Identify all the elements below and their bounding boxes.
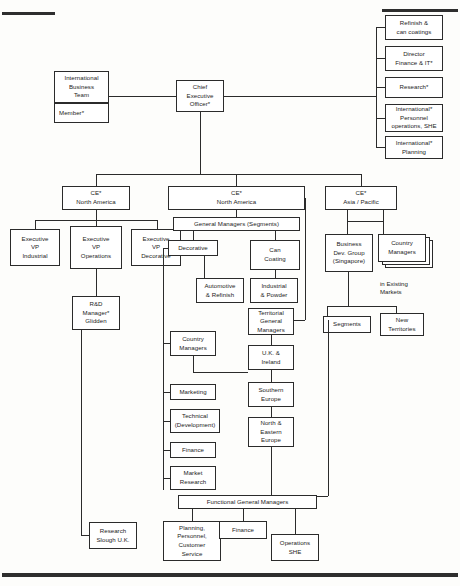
- node-label: Operations SHE: [280, 539, 310, 556]
- connector-uk-to-southern: [271, 370, 272, 382]
- node-decorative[interactable]: Decorative: [168, 240, 218, 256]
- node-label: Territorial General Managers: [257, 309, 285, 335]
- connector-rd-to-slough: [81, 535, 89, 536]
- node-segments[interactable]: Segments: [323, 316, 371, 333]
- node-ce-north-america-center[interactable]: CE* North America: [168, 186, 305, 210]
- node-technical-development[interactable]: Technical (Development): [170, 409, 220, 433]
- connector-fgm-to-planning: [192, 509, 193, 521]
- node-new-territories[interactable]: New Territories: [380, 313, 424, 336]
- node-label: R&D Manager* Glidden: [83, 300, 110, 326]
- connector-cm-elbow-h: [193, 372, 248, 373]
- node-ce-north-america-left[interactable]: CE* North America: [62, 186, 130, 210]
- connector-spine-finance: [163, 450, 170, 451]
- node-label: International* Personnel operations, SHE: [391, 105, 436, 131]
- node-can-coating[interactable]: Can Coating: [250, 240, 300, 270]
- connector-spine-technical: [163, 421, 170, 422]
- node-label: Research*: [400, 83, 429, 92]
- node-label: Southern Europe: [258, 386, 283, 403]
- node-industrial-powder[interactable]: Industrial & Powder: [250, 278, 298, 303]
- connector-bdg-down: [348, 272, 349, 306]
- connector-ibt-ceo: [109, 96, 176, 97]
- node-label: Industrial & Powder: [261, 282, 288, 299]
- connector-fgm-to-operations: [295, 509, 296, 534]
- node-operations-she[interactable]: Operations SHE: [271, 534, 319, 561]
- connector-rd-long-drop: [81, 330, 82, 535]
- node-marketing[interactable]: Marketing: [170, 384, 216, 400]
- top-right-rule: [382, 9, 458, 12]
- node-country-managers-europe[interactable]: Country Managers: [170, 331, 216, 356]
- node-international-planning[interactable]: International* Planning: [385, 136, 443, 159]
- connector-gm-to-decorative: [193, 231, 194, 240]
- connector-ceo-staff-spine: [224, 96, 376, 97]
- node-international-business-team[interactable]: International Business Team: [54, 71, 109, 103]
- node-label: U.K. & Ireland: [262, 349, 281, 366]
- node-international-personnel-operations-she[interactable]: International* Personnel operations, SHE: [385, 104, 443, 132]
- node-chief-executive-officer[interactable]: Chief Executive Officer*: [176, 80, 224, 112]
- node-international-business-team-member[interactable]: Member*: [54, 103, 109, 123]
- node-general-managers-segments[interactable]: General Managers (Segments): [173, 217, 300, 231]
- node-label: Director Finance & IT*: [395, 50, 433, 67]
- connector-na-left-to-industrial: [35, 220, 36, 229]
- node-label: Functional General Managers: [207, 498, 289, 507]
- node-label: Executive VP Industrial: [22, 235, 49, 261]
- node-research-slough-uk[interactable]: Research Slough U.K.: [89, 522, 137, 549]
- connector-asia-to-bdg: [347, 221, 348, 234]
- connector-ce-center-right-drop: [305, 198, 306, 320]
- node-finance-segment[interactable]: Finance: [170, 442, 216, 458]
- node-label: International* Planning: [396, 139, 433, 156]
- node-rd-manager-glidden[interactable]: R&D Manager* Glidden: [72, 296, 120, 330]
- connector-gm-to-can-coating: [275, 231, 276, 240]
- node-finance-functional[interactable]: Finance: [219, 521, 267, 539]
- node-label: CE* North America: [217, 189, 256, 206]
- node-business-dev-group-singapore[interactable]: Business Dev. Group (Singapore): [325, 234, 373, 272]
- node-territorial-general-managers[interactable]: Territorial General Managers: [248, 308, 294, 335]
- node-label: Can Coating: [264, 246, 285, 263]
- node-label: North & Eastern Europe: [260, 419, 281, 445]
- node-research[interactable]: Research*: [385, 77, 443, 98]
- node-automotive-refinish[interactable]: Automotive & Refinish: [196, 278, 244, 303]
- connector-decorative-to-automotive: [204, 256, 205, 278]
- node-refinish-can-coatings[interactable]: Refinish & can coatings: [385, 15, 443, 40]
- connector-spine-marketing: [163, 392, 170, 393]
- node-ce-asia-pacific[interactable]: CE* Asia / Pacific: [325, 186, 397, 210]
- node-label: New Territories: [388, 316, 415, 333]
- node-functional-general-managers[interactable]: Functional General Managers: [178, 495, 317, 509]
- bottom-rule: [2, 573, 458, 577]
- node-market-research[interactable]: Market Research: [170, 466, 216, 490]
- connector-ce-na-center-down: [236, 210, 237, 217]
- connector-ceo-down: [200, 112, 201, 174]
- node-country-managers-asia[interactable]: Country Managers: [378, 234, 426, 262]
- node-executive-vp-operations[interactable]: Executive VP Operations: [70, 226, 122, 269]
- connector-ce-na-left-down: [96, 210, 97, 220]
- node-label: CE* North America: [76, 189, 115, 206]
- connector-staff-director: [376, 58, 385, 59]
- connector-cm-elbow-v: [193, 356, 194, 372]
- node-label: Business Dev. Group (Singapore): [333, 240, 365, 266]
- connector-tier2-bus: [96, 174, 361, 175]
- connector-staff-research: [376, 87, 385, 88]
- connector-asia-right-drop: [383, 210, 384, 221]
- connector-bus-to-ce-na-left: [96, 174, 97, 186]
- connector-fgm-to-finance: [243, 509, 244, 521]
- node-north-eastern-europe[interactable]: North & Eastern Europe: [248, 417, 294, 447]
- label-in-existing-markets: in Existing Markets: [380, 271, 438, 297]
- node-label: Decorative: [178, 244, 208, 253]
- node-label: Refinish & can coatings: [397, 19, 432, 36]
- node-label: Country Managers: [179, 335, 207, 352]
- connector-bus-to-segments: [327, 306, 328, 316]
- connector-center-left-spine: [163, 248, 164, 490]
- node-southern-europe[interactable]: Southern Europe: [248, 382, 294, 407]
- connector-staff-refinish: [376, 27, 385, 28]
- node-director-finance-it[interactable]: Director Finance & IT*: [385, 46, 443, 71]
- connector-asia-left-drop: [347, 210, 348, 221]
- node-executive-vp-industrial[interactable]: Executive VP Industrial: [10, 229, 60, 266]
- node-uk-ireland[interactable]: U.K. & Ireland: [248, 345, 294, 370]
- node-label: Planning, Personnel, Customer Service: [177, 524, 207, 559]
- connector-staff-planning: [376, 147, 385, 148]
- connector-spine-market-research: [163, 478, 170, 479]
- connector-staff-personnel: [376, 118, 385, 119]
- connector-asia-bottom-bus: [327, 306, 396, 307]
- connector-spine-country-managers: [163, 343, 170, 344]
- node-label: Finance: [182, 446, 204, 455]
- node-planning-personnel-customer-service[interactable]: Planning, Personnel, Customer Service: [163, 521, 221, 561]
